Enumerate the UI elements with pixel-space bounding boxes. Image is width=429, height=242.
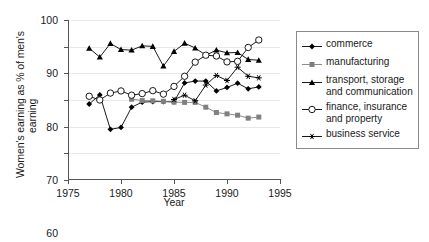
data-point-filled-diamond — [129, 104, 135, 110]
data-point-filled-square — [235, 113, 240, 118]
data-point-filled-diamond — [309, 44, 315, 50]
legend-label: finance, insurance and property — [326, 101, 413, 124]
data-point-asterisk — [309, 134, 315, 139]
y-axis-title-line-2: earning — [26, 99, 38, 133]
data-point-open-circle — [224, 59, 230, 65]
data-point-open-circle — [107, 90, 113, 96]
data-point-filled-triangle — [182, 40, 188, 46]
data-point-filled-triangle — [245, 56, 251, 62]
legend-label: commerce — [326, 38, 373, 50]
x-axis-title: Year — [68, 196, 280, 208]
legend-item-commerce[interactable]: commerce — [301, 38, 413, 52]
data-point-filled-triangle — [213, 47, 219, 53]
data-point-asterisk — [256, 75, 262, 80]
y-tick-label: 90 — [46, 67, 58, 79]
legend-item-finance[interactable]: finance, insurance and property — [301, 101, 413, 124]
legend-label: manufacturing — [326, 56, 389, 68]
data-point-open-circle — [128, 92, 134, 98]
data-point-open-circle — [97, 97, 103, 103]
data-point-open-circle — [245, 44, 251, 50]
data-point-filled-square — [182, 100, 187, 105]
series-line — [89, 43, 259, 66]
data-point-open-circle — [256, 37, 262, 43]
data-point-filled-diamond — [256, 84, 262, 90]
data-point-asterisk — [182, 93, 188, 98]
data-point-asterisk — [224, 78, 230, 83]
data-point-open-circle — [181, 73, 187, 79]
chart-figure: Women's earning as % of men's earning 40… — [0, 0, 429, 242]
data-point-open-circle — [203, 52, 209, 58]
y-axis-title: Women's earning as % of men's earning — [0, 0, 40, 200]
data-point-filled-square — [310, 62, 315, 67]
data-point-filled-triangle — [86, 45, 92, 51]
data-point-open-circle — [150, 87, 156, 93]
legend-label: business service — [326, 128, 400, 140]
data-point-open-circle — [234, 58, 240, 64]
y-tick-label: 80 — [46, 121, 58, 133]
data-point-filled-square — [214, 110, 219, 115]
data-point-filled-square — [225, 111, 230, 116]
data-point-filled-square — [140, 98, 145, 103]
legend-marker-filled-triangle-icon — [301, 75, 323, 88]
legend-item-transport[interactable]: transport, storage and communication — [301, 74, 413, 97]
data-point-filled-diamond — [192, 78, 198, 84]
data-point-filled-diamond — [245, 86, 251, 92]
data-point-filled-square — [203, 105, 208, 110]
data-point-filled-diamond — [118, 125, 124, 131]
data-point-filled-diamond — [182, 80, 188, 86]
data-point-open-circle — [86, 93, 92, 99]
data-point-filled-square — [150, 98, 155, 103]
data-point-filled-triangle — [171, 48, 177, 54]
legend-marker-asterisk-icon — [301, 129, 323, 142]
legend-marker-open-circle-icon — [301, 102, 323, 115]
data-point-open-circle — [213, 53, 219, 59]
data-point-filled-diamond — [224, 85, 230, 91]
data-point-open-circle — [171, 83, 177, 89]
plot-area: 40506070809010019751980198519901995 — [68, 20, 280, 180]
data-point-open-circle — [160, 91, 166, 97]
data-point-open-circle — [309, 106, 315, 112]
y-tick-label: 60 — [46, 227, 58, 239]
legend-marker-filled-square-icon — [301, 57, 323, 70]
legend-item-business-service[interactable]: business service — [301, 128, 413, 142]
series-line — [174, 67, 259, 101]
data-point-open-circle — [118, 88, 124, 94]
data-point-filled-triangle — [192, 45, 198, 51]
data-point-filled-diamond — [235, 80, 241, 86]
data-point-filled-diamond — [108, 126, 114, 132]
data-point-open-circle — [192, 59, 198, 65]
legend-item-manufacturing[interactable]: manufacturing — [301, 56, 413, 70]
legend-marker-filled-diamond-icon — [301, 39, 323, 52]
data-point-filled-square — [161, 99, 166, 104]
data-point-filled-triangle — [107, 40, 113, 46]
y-axis-title-line-1: Women's earning as % of men's — [14, 31, 26, 178]
y-tick-label: 100 — [40, 14, 58, 26]
legend: commercemanufacturingtransport, storage … — [296, 31, 419, 149]
data-point-open-circle — [139, 90, 145, 96]
series-layer — [68, 20, 280, 180]
y-tick-label: 70 — [46, 174, 58, 186]
data-point-filled-square — [246, 116, 251, 121]
data-point-filled-square — [256, 115, 261, 120]
legend-label: transport, storage and communication — [326, 74, 413, 97]
x-tick — [280, 179, 281, 184]
